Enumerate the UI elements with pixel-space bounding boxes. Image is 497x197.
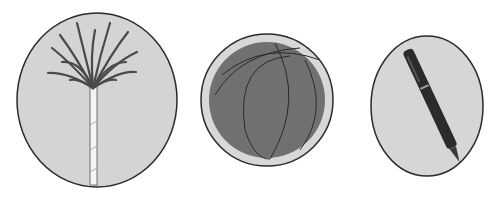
palm-tree-illustration — [17, 13, 177, 187]
pen-illustration — [371, 36, 483, 176]
illustration-canvas — [0, 0, 497, 197]
ball-illustration — [201, 34, 333, 166]
